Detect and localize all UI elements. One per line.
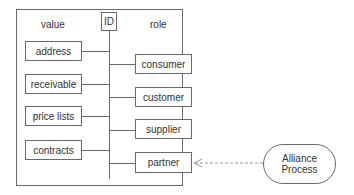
process-label-line2: Process	[281, 164, 317, 175]
process-label-line1: Alliance	[282, 153, 317, 164]
alliance-process-node[interactable]: Alliance Process	[263, 144, 336, 184]
